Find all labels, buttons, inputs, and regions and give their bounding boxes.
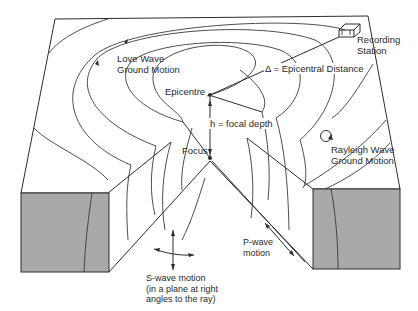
rayleigh-wave-label-line1: Rayleigh Wave (331, 144, 395, 155)
right-block (313, 189, 400, 269)
love-wave-label: Love Wave Ground Motion (117, 53, 180, 75)
p-wave-label-line1: P-wave (243, 237, 273, 248)
love-wave-label-line2: Ground Motion (117, 64, 180, 75)
recording-station-label-line1: Recording (357, 34, 400, 45)
epicentre-label: Epicentre (165, 86, 205, 97)
s-wave-label-line2: (in a plane at right (146, 284, 218, 295)
focus-label: Focus (182, 145, 208, 156)
p-wave-label: P-wave motion (243, 237, 273, 258)
focal-depth-label: h = focal depth (209, 118, 274, 129)
recording-station-label-line2: Station (357, 45, 400, 56)
rayleigh-orbit-icon (321, 131, 334, 142)
s-wave-label: S-wave motion (in a plane at right angle… (146, 273, 218, 305)
s-wave-label-line1: S-wave motion (146, 273, 218, 284)
s-wave-label-line3: angles to the ray) (146, 294, 218, 305)
recording-station-label: Recording Station (357, 34, 400, 56)
p-wave-label-line2: motion (243, 248, 273, 259)
rayleigh-wave-label-line2: Ground Motion (331, 155, 395, 166)
focus-point (208, 156, 212, 160)
epicentre-point (208, 93, 212, 97)
s-wave-arrows-icon (154, 230, 194, 270)
love-wave-label-line1: Love Wave (117, 53, 180, 64)
epicentral-distance-label: Δ = Epicentral Distance (264, 63, 365, 74)
left-block (21, 193, 109, 272)
rayleigh-wave-label: Rayleigh Wave Ground Motion (331, 144, 395, 166)
